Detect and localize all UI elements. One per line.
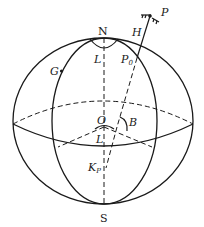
label-south: S [100,212,108,225]
label-foot-point: P0 [120,53,133,67]
label-height: H [131,26,142,39]
latitude-arc [120,117,127,131]
kp-line [106,127,117,168]
label-center: O [97,114,106,127]
sphere-diagram: N S O P H P0 L L B G KP [0,0,204,227]
label-longitude-top: L [93,53,101,66]
point-g [60,69,63,72]
hatch-mark [153,19,154,22]
label-greenwich: G [50,65,59,78]
label-longitude-center: L [95,133,103,146]
point-p [148,14,152,18]
label-north: N [98,25,108,38]
hatch-mark [156,21,157,24]
label-latitude: B [128,116,137,129]
label-point-p: P [160,6,169,19]
label-kp: KP [87,161,101,175]
